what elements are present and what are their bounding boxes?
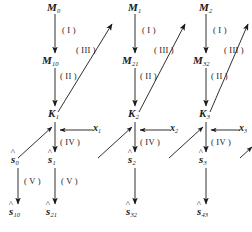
arrow-label-stage-four-col1: ( IV ) — [60, 138, 80, 147]
input-label-x3: x3 — [239, 123, 247, 133]
hat-accent-icon: ^ — [46, 200, 50, 209]
arrow-label-stage-two-col1: ( II ) — [60, 72, 77, 81]
hat-accent-icon: ^ — [128, 148, 132, 157]
arrow-label-stage-two-col2: ( II ) — [140, 72, 157, 81]
node-k-1: K1 — [48, 108, 59, 119]
arrow-label-stage-one-col3: ( I ) — [213, 26, 227, 35]
hat-accent-icon: ^ — [11, 148, 15, 157]
arrow-label-stage-two-col3: ( II ) — [211, 72, 228, 81]
hat-accent-icon: ^ — [197, 200, 201, 209]
node-m-2: M2 — [199, 2, 212, 13]
node-shat-32: ^s32 — [126, 206, 137, 217]
node-shat-2: ^s2 — [128, 154, 136, 165]
arrow-label-stage-one-col1: ( I ) — [62, 26, 76, 35]
arrow-label-stage-three-col1: ( III ) — [76, 46, 96, 55]
arrow-stage-three-col3 — [210, 24, 248, 112]
node-shat-3: ^s3 — [199, 154, 207, 165]
node-m-1: M1 — [128, 2, 141, 13]
node-m-32: M32 — [193, 55, 209, 66]
node-k-2: K2 — [128, 108, 139, 119]
input-label-x1: x1 — [93, 123, 101, 133]
hat-accent-icon: ^ — [9, 200, 13, 209]
node-shat-1: ^s1 — [48, 154, 56, 165]
hat-accent-icon: ^ — [48, 148, 52, 157]
arrow-stage-three-col1 — [58, 24, 112, 112]
arrow-label-stage-four-col3: ( IV ) — [211, 138, 231, 147]
arrow-label-stage-three-col3: ( III ) — [224, 46, 244, 55]
arrow-label-stage-five-col2: ( V ) — [61, 177, 78, 186]
node-m-0: M0 — [47, 2, 60, 13]
diagram-canvas: M_{i+1,i} vertical, column 1/2/3 --> K_i… — [0, 0, 252, 232]
arrow-stage-four-col4 — [240, 147, 252, 158]
node-m-21: M21 — [122, 55, 138, 66]
arrow-label-stage-one-col2: ( I ) — [142, 26, 156, 35]
arrow-label-stage-four-col2: ( IV ) — [140, 138, 160, 147]
arrow-label-stage-five-col1: ( V ) — [24, 177, 41, 186]
hat-accent-icon: ^ — [199, 148, 203, 157]
node-shat-10: ^s10 — [9, 206, 20, 217]
input-label-x2: x2 — [170, 123, 178, 133]
node-shat-43: ^s43 — [197, 206, 208, 217]
node-k-3: K3 — [199, 108, 210, 119]
arrow-stage-three-col2 — [139, 24, 185, 112]
node-shat-21: ^s21 — [46, 206, 57, 217]
hat-accent-icon: ^ — [126, 200, 130, 209]
node-shat-0: ^s0 — [11, 154, 19, 165]
node-m-10: M10 — [42, 55, 58, 66]
arrow-label-stage-three-col2: ( III ) — [154, 46, 174, 55]
